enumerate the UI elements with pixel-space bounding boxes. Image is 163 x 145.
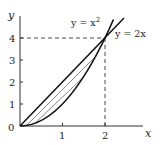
line-y-equals-2x <box>20 18 124 126</box>
x-tick-label-1: 1 <box>59 130 65 141</box>
y-tick-label-1: 1 <box>9 99 15 110</box>
parabola-y-equals-x-squared <box>20 20 114 127</box>
hatched-region <box>8 30 136 126</box>
y-tick-label-4: 4 <box>9 33 15 44</box>
x-tick-label-2: 2 <box>102 130 108 141</box>
y-tick-label-2: 2 <box>9 77 15 88</box>
origin-label: 0 <box>8 122 14 133</box>
curves <box>20 18 124 126</box>
area-between-curves-figure: y x 0 1 2 1 2 3 4 y = x2 y = 2x <box>0 0 163 145</box>
y-tick-label-3: 3 <box>9 55 15 66</box>
y-axis-label: y <box>7 9 15 22</box>
parabola-label: y = x2 <box>70 16 100 28</box>
line-label: y = 2x <box>114 28 146 39</box>
x-axis-label: x <box>145 127 152 140</box>
labels: y x 0 1 2 1 2 3 4 y = x2 y = 2x <box>7 9 152 141</box>
